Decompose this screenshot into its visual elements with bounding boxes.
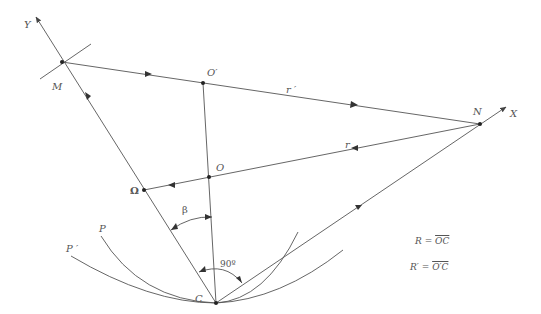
r-line <box>144 124 480 190</box>
label-o: O <box>216 163 224 173</box>
label-beta: β <box>182 205 188 215</box>
formula-r-prime-rhs: O′C <box>432 262 448 272</box>
formula-r-lhs: R <box>415 236 422 246</box>
label-90-degrees: 90º <box>220 260 236 269</box>
point-n <box>478 122 482 126</box>
point-m <box>60 60 64 64</box>
point-omega <box>142 188 146 192</box>
diagram-canvas: Y X M O′ N O Ω C P P ′ r r ′ β 90º R = O… <box>0 0 541 314</box>
label-m: M <box>52 82 62 92</box>
label-p-prime: P ′ <box>66 244 78 254</box>
arrowhead-mn-1 <box>145 71 152 77</box>
m-cross-line <box>40 44 91 79</box>
point-o <box>207 175 211 179</box>
arrowhead-cx <box>355 205 362 210</box>
arrowhead-90-1 <box>199 266 206 272</box>
formula-r: R = OC <box>415 237 449 246</box>
label-r-prime: r ′ <box>286 85 296 95</box>
diagram-svg <box>0 0 541 314</box>
arrowhead-n-omega-2 <box>168 182 175 188</box>
curve-p-prime <box>71 250 343 303</box>
formula-r-eq: = <box>425 236 433 246</box>
formula-r-rhs: OC <box>435 236 449 246</box>
label-c: C <box>195 294 203 304</box>
arrowhead-beta-1 <box>171 223 178 230</box>
label-x-axis: X <box>510 109 517 119</box>
formula-r-prime-eq: = <box>422 262 430 272</box>
point-c <box>214 301 218 305</box>
label-p: P <box>99 224 106 234</box>
label-o-prime: O′ <box>207 68 217 78</box>
formula-r-prime: R′ = O′C <box>410 263 448 272</box>
label-n: N <box>473 107 482 117</box>
label-omega: Ω <box>130 186 139 196</box>
label-r: r <box>345 140 350 150</box>
formula-r-prime-lhs: R′ <box>410 262 419 272</box>
label-y-axis: Y <box>24 20 31 30</box>
y-axis-line <box>36 17 216 303</box>
arrowhead-n-omega-1 <box>351 145 358 151</box>
r-prime-line <box>62 62 480 124</box>
arrowhead-mn-2 <box>350 101 358 108</box>
point-o-prime <box>201 81 205 85</box>
